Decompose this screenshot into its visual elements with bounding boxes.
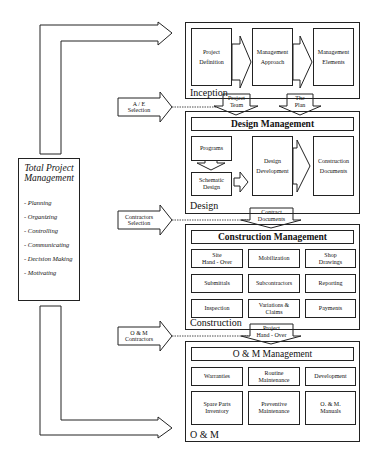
step-line1: Project (203, 49, 220, 56)
om-cell: Spare PartsInventory (191, 391, 243, 425)
cell-line1: Routine (265, 370, 284, 377)
construction-cell: Submittals (191, 274, 243, 293)
step-line1: Management (257, 49, 288, 56)
tpm-to-om-arrow (40, 306, 172, 438)
cell-line1: Warranties (204, 373, 230, 380)
om-contractors-label: O & M Contractors (118, 327, 160, 345)
cell-line2: Design (203, 184, 220, 191)
cell-line1: Reporting (319, 280, 343, 287)
cell-line1: Subcontractors (256, 280, 292, 287)
om-cell: PreventiveMaintenance (248, 391, 300, 425)
inception-step-management-elements: Management Elements (313, 28, 354, 86)
om-label: O & M (190, 430, 219, 440)
project-handover-label: Project Hand - Over (250, 325, 293, 338)
inception-step-project-definition: Project Definition (191, 28, 232, 86)
construction-cell: Variations &Claims (248, 299, 300, 318)
cell-line2: Inventory (205, 408, 228, 415)
cell-line2: Maintenance (259, 408, 290, 415)
step-line2: Definition (199, 59, 224, 66)
conn-line2: Hand - Over (250, 332, 293, 339)
inception-phase: Project Definition Management Approach M… (185, 22, 360, 99)
construction-cell: Inspection (191, 299, 243, 318)
ae-selection-label: A / E Selection (118, 98, 160, 116)
conn-line2: Documents (250, 216, 293, 223)
cell-line2: Development (256, 168, 288, 175)
cell-line1: Submittals (204, 280, 230, 287)
design-phase: Design Management Programs Schematic Des… (185, 111, 360, 214)
step-line1: Management (318, 49, 349, 56)
tpm-function: - Organizing (24, 213, 72, 227)
construction-cell: Subcontractors (248, 274, 300, 293)
programs-box: Programs (191, 136, 232, 161)
construction-cell: Reporting (305, 274, 356, 293)
tpm-function: - Planning (24, 199, 72, 213)
tpm-functions-list: - Planning - Organizing - Controlling - … (24, 199, 72, 283)
cell-line2: Maintenance (259, 377, 290, 384)
cell-line2: Manuals (320, 408, 341, 415)
tpm-function: - Motivating (24, 269, 72, 283)
cell-line1: Development (314, 373, 346, 380)
the-plan-label: The Plan (287, 95, 313, 108)
om-phase: O & M Management Warranties RoutineMaint… (185, 341, 360, 442)
tpm-box: Total Project Management - Planning - Or… (18, 158, 80, 301)
construction-phase: Construction Management SiteHand - Over … (185, 224, 360, 330)
tpm-function: - Controlling (24, 227, 72, 241)
conn-line2: Team (223, 102, 250, 109)
construction-cell: ShopDrawings (305, 249, 356, 268)
design-management-title: Design Management (191, 117, 354, 131)
om-cell: O. & M.Manuals (305, 391, 356, 425)
cell-line2: Claims (265, 309, 282, 316)
cell-line1: Inspection (205, 305, 230, 312)
cell-line1: Mobilization (259, 255, 290, 262)
construction-cell: Payments (305, 299, 356, 318)
construction-cell: Mobilization (248, 249, 300, 268)
project-team-label: Project Team (223, 95, 250, 108)
construction-grid: SiteHand - Over Mobilization ShopDrawing… (191, 249, 356, 319)
cell-line1: Variations & (259, 302, 290, 309)
cell-line2: Drawings (319, 259, 342, 266)
tpm-title-line1: Total Project (19, 163, 79, 173)
construction-documents-box: Construction Documents (313, 136, 354, 196)
cell-line1: Shop (324, 252, 336, 259)
cell-line1: Construction (318, 158, 349, 165)
om-contractors-line2: Contractors (125, 336, 153, 343)
construction-cell: SiteHand - Over (191, 249, 243, 268)
cell-line1: Schematic (199, 177, 224, 184)
cell-line2: Hand - Over (202, 259, 232, 266)
schematic-design-box: Schematic Design (191, 172, 232, 196)
tpm-title: Total Project Management (19, 163, 79, 183)
om-management-title: O & M Management (191, 347, 354, 361)
cell-line1: Site (212, 252, 221, 259)
step-line2: Approach (261, 59, 285, 66)
inception-step-management-approach: Management Approach (252, 28, 293, 86)
tpm-to-inception-arrow (40, 22, 172, 154)
ae-line2: Selection (128, 107, 150, 114)
om-cell: Development (305, 367, 356, 386)
om-cell: RoutineMaintenance (248, 367, 300, 386)
cell-line1: Spare Parts (203, 401, 230, 408)
design-label: Design (190, 201, 218, 211)
contractors-line2: Selection (128, 220, 150, 227)
tpm-function: - Decision Making (24, 255, 72, 269)
conn-line2: Plan (287, 102, 313, 109)
construction-label: Construction (190, 318, 242, 328)
contract-documents-label: Contract Documents (250, 209, 293, 222)
cell-line1: O. & M. (320, 401, 340, 408)
contractors-selection-label: Contractors Selection (118, 211, 160, 229)
design-development-box: Design Development (252, 136, 293, 196)
tpm-function: - Communicating (24, 241, 72, 255)
step-line2: Elements (322, 59, 344, 66)
om-cell: Warranties (191, 367, 243, 386)
cell-line1: Design (264, 158, 281, 165)
cell-line1: Payments (319, 305, 342, 312)
construction-management-title: Construction Management (191, 230, 354, 244)
cell-line2: Documents (320, 168, 347, 175)
cell-line1: Preventive (261, 401, 287, 408)
tpm-title-line2: Management (19, 173, 79, 183)
